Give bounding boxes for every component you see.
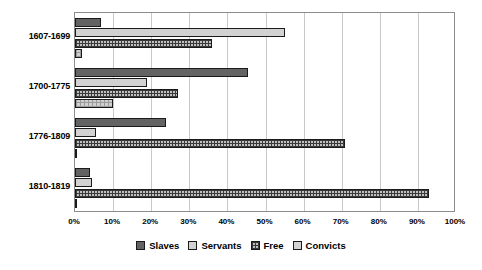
bar-servants-1810-1819: [75, 178, 92, 187]
legend-item-slaves[interactable]: Slaves: [136, 240, 179, 251]
legend-swatch-servants-icon: [188, 241, 197, 250]
legend-label-slaves: Slaves: [149, 240, 179, 251]
gridline: [304, 13, 305, 211]
bar-servants-1700-1775: [75, 78, 147, 87]
legend-swatch-free-icon: [251, 241, 260, 250]
bar-slaves-1776-1809: [75, 118, 166, 127]
bar-free-1607-1699: [75, 39, 212, 48]
bar-slaves-1607-1699: [75, 18, 101, 27]
legend-swatch-slaves-icon: [136, 241, 145, 250]
legend-item-servants[interactable]: Servants: [188, 240, 241, 251]
bar-free-1776-1809: [75, 139, 345, 148]
legend-item-convicts[interactable]: Convicts: [293, 240, 346, 251]
x-tick-90%: 90%: [409, 217, 425, 226]
legend-label-free: Free: [264, 240, 284, 251]
bar-convicts-1776-1809: [75, 149, 77, 158]
legend-swatch-convicts-icon: [293, 241, 302, 250]
x-tick-20%: 20%: [142, 217, 158, 226]
plot-area: [74, 12, 455, 212]
x-tick-60%: 60%: [295, 217, 311, 226]
legend-label-convicts: Convicts: [306, 240, 346, 251]
bar-slaves-1700-1775: [75, 68, 248, 77]
x-tick-50%: 50%: [256, 217, 272, 226]
x-tick-80%: 80%: [371, 217, 387, 226]
x-tick-70%: 70%: [333, 217, 349, 226]
bar-servants-1607-1699: [75, 28, 285, 37]
legend-label-servants: Servants: [201, 240, 241, 251]
gridline: [418, 13, 419, 211]
bar-chart: 1607-16991700-17751776-18091810-1819 0%1…: [0, 0, 482, 270]
gridline: [266, 13, 267, 211]
gridline: [342, 13, 343, 211]
bar-free-1700-1775: [75, 89, 178, 98]
bar-convicts-1607-1699: [75, 49, 82, 58]
category-label-1776-1809: 1776-1809: [0, 131, 70, 141]
gridline: [227, 13, 228, 211]
bar-servants-1776-1809: [75, 128, 96, 137]
category-label-1810-1819: 1810-1819: [0, 181, 70, 191]
category-label-1700-1775: 1700-1775: [0, 81, 70, 91]
gridline: [380, 13, 381, 211]
bar-convicts-1700-1775: [75, 99, 113, 108]
bar-convicts-1810-1819: [75, 199, 77, 208]
x-tick-0%: 0%: [68, 217, 80, 226]
bar-free-1810-1819: [75, 189, 429, 198]
x-tick-30%: 30%: [180, 217, 196, 226]
category-label-1607-1699: 1607-1699: [0, 31, 70, 41]
x-tick-10%: 10%: [104, 217, 120, 226]
x-tick-40%: 40%: [218, 217, 234, 226]
chart-legend: SlavesServantsFreeConvicts: [0, 240, 482, 251]
bar-slaves-1810-1819: [75, 168, 90, 177]
legend-item-free[interactable]: Free: [251, 240, 284, 251]
x-tick-100%: 100%: [445, 217, 465, 226]
